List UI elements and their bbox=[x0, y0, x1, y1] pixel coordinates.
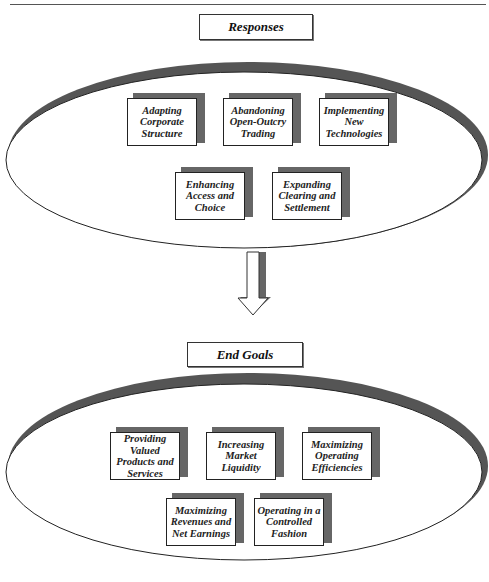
responses-ellipse bbox=[6, 62, 488, 248]
node-label: Maximizing Operating Efficiencies bbox=[302, 432, 372, 480]
goal-node: Operating in a Controlled Fashion bbox=[254, 498, 326, 548]
goal-node: Maximizing Revenues and Net Earnings bbox=[166, 498, 238, 548]
response-node: Abandoning Open-Outcry Trading bbox=[223, 98, 295, 148]
end-goals-title: End Goals bbox=[187, 342, 303, 367]
node-label: Increasing Market Liquidity bbox=[206, 432, 276, 480]
node-label: Abandoning Open-Outcry Trading bbox=[223, 98, 293, 146]
node-label: Operating in a Controlled Fashion bbox=[254, 498, 324, 546]
goal-node: Providing Valued Products and Services bbox=[110, 432, 182, 482]
node-label: Implementing New Technologies bbox=[319, 98, 389, 146]
node-label: Enhancing Access and Choice bbox=[175, 172, 245, 220]
goal-node: Increasing Market Liquidity bbox=[206, 432, 278, 482]
response-node: Enhancing Access and Choice bbox=[175, 172, 247, 222]
node-label: Adapting Corporate Structure bbox=[127, 98, 197, 146]
node-label: Expanding Clearing and Settlement bbox=[272, 172, 342, 220]
down-arrow-icon bbox=[238, 252, 271, 315]
goal-node: Maximizing Operating Efficiencies bbox=[302, 432, 374, 482]
node-label: Providing Valued Products and Services bbox=[110, 432, 180, 480]
responses-title: Responses bbox=[199, 14, 313, 40]
response-node: Adapting Corporate Structure bbox=[127, 98, 199, 148]
node-label: Maximizing Revenues and Net Earnings bbox=[166, 498, 236, 546]
diagram-shapes bbox=[0, 0, 489, 582]
response-node: Expanding Clearing and Settlement bbox=[272, 172, 344, 222]
response-node: Implementing New Technologies bbox=[319, 98, 391, 148]
